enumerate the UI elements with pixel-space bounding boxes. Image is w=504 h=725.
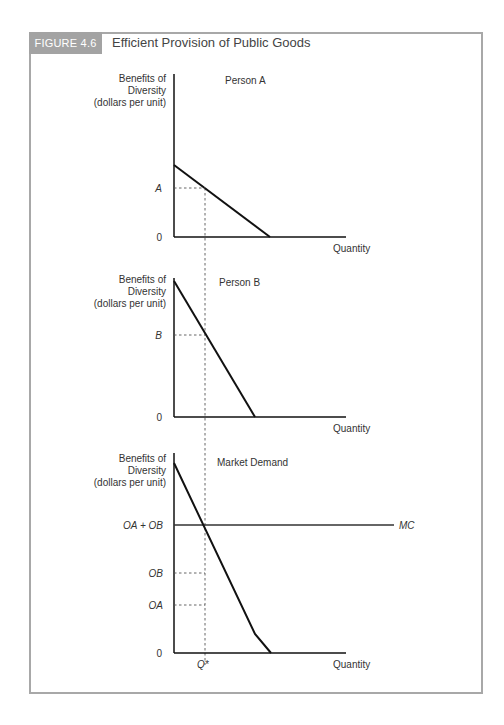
y-axis-label-line1: Benefits of — [119, 73, 166, 84]
tick-label-oa: OA — [149, 600, 164, 611]
panel-person-b: Benefits of Diversity (dollars per unit)… — [94, 274, 371, 434]
x-axis-label: Quantity — [333, 423, 370, 434]
panel-market-demand: Benefits of Diversity (dollars per unit)… — [94, 453, 416, 670]
chart-canvas: Benefits of Diversity (dollars per unit)… — [0, 0, 504, 725]
tick-label-ob: OB — [149, 568, 164, 579]
y-axis-label-line1: Benefits of — [119, 274, 166, 285]
y-axis-label-line3: (dollars per unit) — [94, 97, 166, 108]
x-axis-label: Quantity — [333, 659, 370, 670]
x-axis-label: Quantity — [333, 243, 370, 254]
panel-title: Person B — [219, 277, 260, 288]
tick-label-oa-ob: OA + OB — [123, 520, 163, 531]
q-star-label: Q* — [197, 659, 210, 670]
origin-label: 0 — [156, 232, 162, 243]
panel-title: Market Demand — [217, 457, 288, 468]
y-axis-label-line2: Diversity — [128, 85, 166, 96]
market-demand-curve — [174, 463, 271, 653]
tick-label-a: A — [154, 183, 162, 194]
y-axis-label-line1: Benefits of — [119, 453, 166, 464]
y-axis-label-line3: (dollars per unit) — [94, 298, 166, 309]
panel-person-a: Benefits of Diversity (dollars per unit)… — [94, 73, 371, 254]
y-axis-label-line2: Diversity — [128, 286, 166, 297]
y-axis-label-line2: Diversity — [128, 465, 166, 476]
demand-curve-b — [174, 281, 255, 417]
tick-label-b: B — [155, 330, 162, 341]
y-axis-label-line3: (dollars per unit) — [94, 477, 166, 488]
mc-label: MC — [399, 520, 415, 531]
origin-label: 0 — [156, 412, 162, 423]
demand-curve-a — [174, 165, 270, 237]
panel-title: Person A — [225, 75, 266, 86]
origin-label: 0 — [156, 648, 162, 659]
